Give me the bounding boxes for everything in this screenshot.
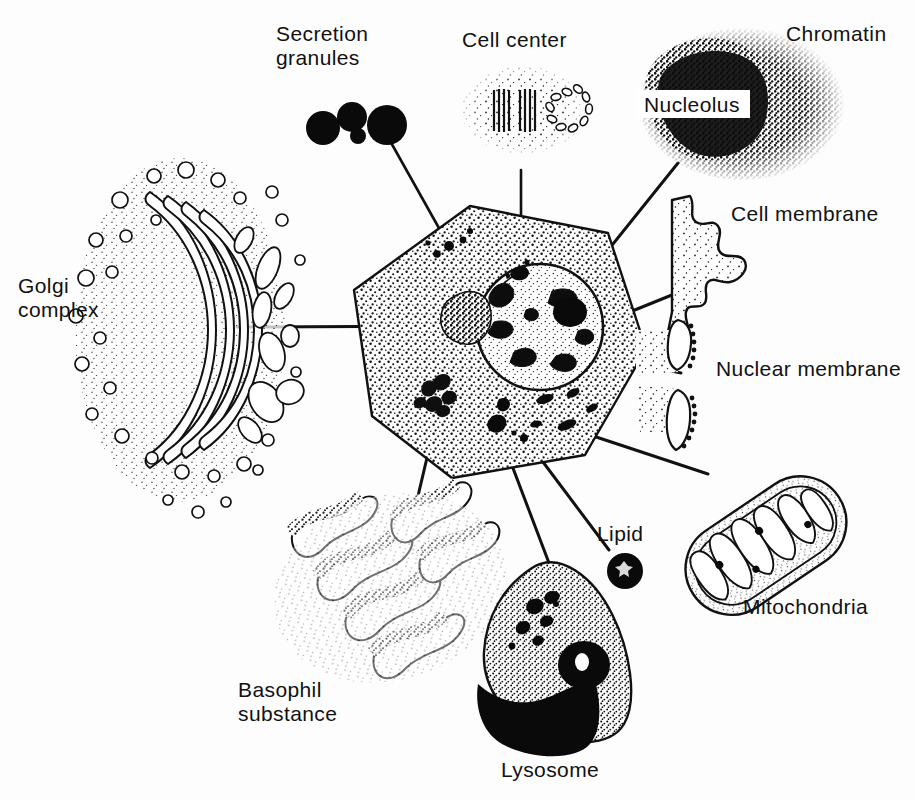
label-nuclear-membrane: Nuclear membrane [716,357,901,381]
nuclear-membrane-lower [667,390,690,450]
chromatin-strand [575,329,594,344]
label-secretion-granules: Secretion granules [276,22,368,70]
nuclear-membrane-detail [636,320,697,450]
granule [306,111,340,145]
granule [367,105,407,145]
cell-diagram-svg [0,0,915,800]
nucleus [477,264,603,390]
cell-body [354,206,646,478]
secretion-granules-detail [306,102,407,145]
label-basophil-substance: Basophil substance [238,678,337,726]
label-mitochondria: Mitochondria [743,595,868,619]
nucleolus-in-cell [553,297,587,327]
label-golgi-complex: Golgi complex [18,274,99,322]
granule [350,128,366,144]
cell-center-detail [461,66,593,154]
lipid-detail [607,553,643,589]
lysosome-vacuole [558,641,610,689]
label-cell-membrane: Cell membrane [731,202,879,226]
granule [337,102,367,132]
label-lysosome: Lysosome [501,758,599,782]
golgi-complex-detail [69,158,307,518]
label-chromatin: Chromatin [786,22,886,46]
label-lipid: Lipid [597,522,643,546]
nuclear-membrane-upper [668,320,691,370]
golgi-in-cell [441,292,492,345]
label-nucleolus: Nucleolus [641,92,743,118]
figure-canvas: Secretion granules Cell center Chromatin… [0,0,915,800]
chromatin-strand [524,309,538,321]
label-cell-center: Cell center [462,28,567,52]
